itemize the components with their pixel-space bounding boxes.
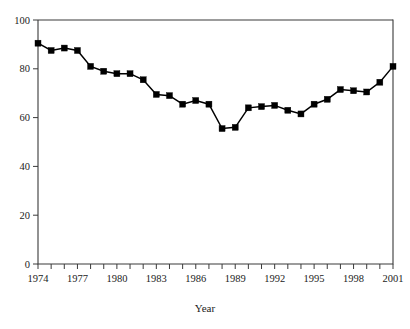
data-point-marker: [390, 63, 396, 69]
y-axis-tick-labels: 020406080100: [14, 15, 30, 270]
data-point-marker: [324, 96, 330, 102]
x-tick-label: 1983: [146, 273, 167, 284]
data-point-marker: [48, 48, 54, 54]
data-point-marker: [74, 48, 80, 54]
x-axis-title: Year: [195, 302, 216, 314]
x-tick-label: 1980: [106, 273, 127, 284]
x-tick-label: 1977: [67, 273, 88, 284]
data-series-group: [35, 40, 396, 131]
data-point-marker: [364, 89, 370, 95]
data-point-marker: [101, 68, 107, 74]
data-point-marker: [285, 107, 291, 113]
chart-canvas: 020406080100 197419771980198319861989199…: [0, 0, 410, 329]
plot-frame: [38, 20, 393, 265]
x-tick-label: 1998: [343, 273, 364, 284]
data-point-marker: [219, 126, 225, 132]
data-point-marker: [259, 104, 265, 110]
axis-lines: [38, 20, 393, 265]
clipped-caption-text: [8, 0, 11, 4]
series-line: [38, 43, 393, 128]
data-point-marker: [140, 77, 146, 83]
data-point-marker: [272, 102, 278, 108]
data-point-marker: [114, 71, 120, 77]
y-tick-label: 60: [20, 112, 31, 123]
data-point-marker: [88, 63, 94, 69]
y-tick-label: 20: [20, 210, 31, 221]
x-tick-label: 1986: [185, 273, 206, 284]
data-point-marker: [351, 88, 357, 94]
data-point-marker: [311, 101, 317, 107]
y-axis-ticks: [33, 20, 38, 264]
y-tick-label: 0: [25, 259, 30, 270]
x-tick-label: 1992: [264, 273, 285, 284]
x-tick-label: 1989: [225, 273, 246, 284]
data-point-marker: [298, 111, 304, 117]
y-tick-label: 80: [20, 63, 31, 74]
x-tick-label: 2001: [383, 273, 404, 284]
data-point-marker: [206, 101, 212, 107]
data-point-marker: [153, 91, 159, 97]
data-point-marker: [377, 79, 383, 85]
data-point-marker: [245, 105, 251, 111]
data-point-marker: [35, 40, 41, 46]
data-point-marker: [127, 71, 133, 77]
x-tick-label: 1995: [304, 273, 325, 284]
data-point-marker: [232, 124, 238, 130]
data-point-marker: [193, 98, 199, 104]
y-tick-label: 100: [14, 15, 30, 26]
data-point-marker: [337, 87, 343, 93]
x-tick-label: 1974: [28, 273, 50, 284]
data-point-marker: [61, 45, 67, 51]
x-axis-ticks: [38, 264, 393, 269]
y-tick-label: 40: [20, 161, 31, 172]
line-chart: 020406080100 197419771980198319861989199…: [0, 0, 410, 329]
data-point-marker: [166, 93, 172, 99]
data-point-marker: [180, 101, 186, 107]
x-axis-tick-labels: 1974197719801983198619891992199519982001: [28, 273, 404, 284]
